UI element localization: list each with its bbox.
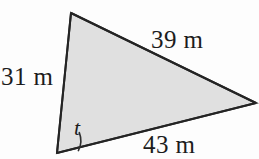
side-label-base: 43 m — [143, 132, 195, 157]
angle-label-t: t — [74, 117, 80, 139]
side-label-left: 31 m — [1, 64, 53, 89]
side-label-top: 39 m — [151, 27, 203, 52]
geometry-figure: 31 m 39 m 43 m t — [0, 0, 259, 159]
